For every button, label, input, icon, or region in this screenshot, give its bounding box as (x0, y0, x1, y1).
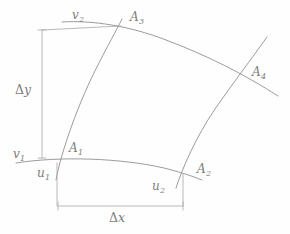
label-v1: v1 (13, 148, 25, 160)
label-A3: A3 (130, 11, 144, 23)
label-delta-y: Δy (15, 84, 31, 97)
label-delta-x: Δx (109, 212, 125, 225)
figure-canvas (0, 0, 290, 234)
label-A4: A4 (252, 66, 266, 78)
label-A2: A2 (197, 163, 211, 175)
figure-background (0, 0, 290, 234)
label-u2: u2 (152, 180, 165, 192)
label-v2: v2 (72, 9, 84, 21)
label-A1: A1 (69, 142, 83, 154)
label-u1: u1 (37, 167, 50, 179)
curvilinear-coordinate-figure: v2 v1 u1 u2 A1 A2 A3 A4 Δy Δx (0, 0, 290, 234)
